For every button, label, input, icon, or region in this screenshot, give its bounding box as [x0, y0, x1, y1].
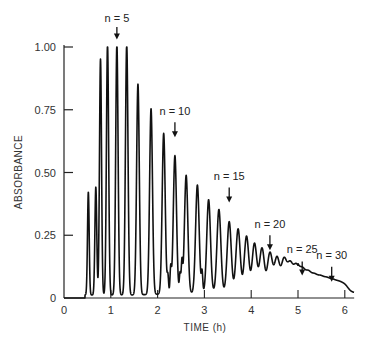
- y-tick-label: 0.50: [35, 167, 56, 179]
- peak-annotation: n = 20: [254, 218, 285, 251]
- x-tick-label: 5: [295, 304, 301, 316]
- arrow-head-icon: [267, 244, 273, 250]
- y-axis-title: ABSORBANCE: [13, 135, 24, 209]
- peak-annotation: n = 30: [316, 249, 347, 282]
- x-tick-label: 2: [155, 304, 161, 316]
- peak-annotation: n = 15: [214, 170, 245, 203]
- y-tick-label: 0.75: [35, 104, 56, 116]
- y-tick-label: 0: [50, 292, 56, 304]
- x-tick-label: 4: [248, 304, 254, 316]
- annotation-label: n = 15: [214, 170, 245, 182]
- x-axis-title: TIME (h): [184, 322, 227, 333]
- y-tick-label: 0.25: [35, 229, 56, 241]
- arrow-head-icon: [114, 33, 120, 39]
- x-tick-label: 1: [108, 304, 114, 316]
- absorbance-time-chart: 00.250.500.751.000123456 n = 5n = 10n = …: [0, 0, 376, 350]
- annotation-label: n = 10: [159, 105, 190, 117]
- arrow-head-icon: [226, 197, 232, 203]
- peak-annotation: n = 5: [104, 12, 129, 40]
- chromatogram-curve: [64, 47, 354, 298]
- arrow-head-icon: [299, 269, 305, 275]
- absorbance-trace: [64, 47, 354, 298]
- x-tick-label: 6: [342, 304, 348, 316]
- annotation-label: n = 25: [287, 243, 318, 255]
- x-tick-label: 3: [201, 304, 207, 316]
- arrow-head-icon: [172, 131, 178, 137]
- annotation-label: n = 5: [104, 12, 129, 24]
- peak-annotation: n = 25: [287, 243, 318, 276]
- annotation-label: n = 20: [254, 218, 285, 230]
- y-tick-label: 1.00: [35, 41, 56, 53]
- peak-annotation: n = 10: [159, 105, 190, 138]
- annotation-label: n = 30: [316, 249, 347, 261]
- x-tick-label: 0: [61, 304, 67, 316]
